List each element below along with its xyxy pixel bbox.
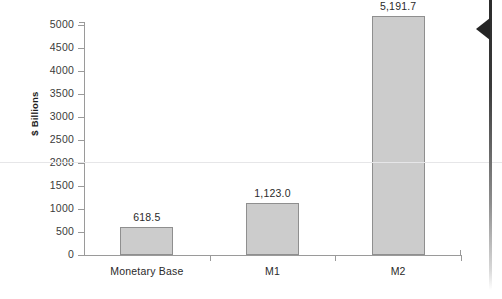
y-axis-tick-label: 3500 bbox=[28, 88, 74, 99]
y-axis-tick-label-wrap: 2500 bbox=[22, 140, 74, 141]
y-axis-tick-label-wrap: 4500 bbox=[22, 48, 74, 49]
y-axis-tick-label: 1000 bbox=[28, 203, 74, 214]
scan-line-artifact bbox=[0, 162, 502, 163]
x-axis-category-label: M1 bbox=[213, 265, 333, 277]
y-axis-tick bbox=[78, 255, 84, 256]
bar-value-label: 1,123.0 bbox=[223, 187, 323, 199]
y-axis-tick-label-wrap: 2000 bbox=[22, 163, 74, 164]
y-axis-top-cap bbox=[79, 22, 85, 23]
y-axis-tick-label: 500 bbox=[28, 226, 74, 237]
y-axis-tick-label: 0 bbox=[28, 249, 74, 260]
x-axis-category-label: Monetary Base bbox=[87, 265, 207, 277]
y-axis-tick-label-wrap: 4000 bbox=[22, 71, 74, 72]
y-axis-tick bbox=[78, 48, 84, 49]
y-axis-tick-label-wrap: 5000 bbox=[22, 25, 74, 26]
arrow-marker-icon bbox=[476, 18, 490, 40]
y-axis-tick-label: 2500 bbox=[28, 134, 74, 145]
x-axis-line bbox=[84, 255, 461, 256]
page-edge-artifact bbox=[489, 0, 492, 290]
y-axis-tick-label-wrap: 1000 bbox=[22, 209, 74, 210]
y-axis-tick bbox=[78, 232, 84, 233]
y-axis-tick bbox=[78, 94, 84, 95]
y-axis-tick-label-wrap: 0 bbox=[22, 255, 74, 256]
y-axis-tick bbox=[78, 140, 84, 141]
x-axis-tick bbox=[335, 255, 336, 261]
y-axis-tick-label-wrap: 1500 bbox=[22, 186, 74, 187]
y-axis-tick-label-wrap: 3500 bbox=[22, 94, 74, 95]
y-axis-tick-label-wrap: 3000 bbox=[22, 117, 74, 118]
y-axis-tick-label: 3000 bbox=[28, 111, 74, 122]
y-axis-line bbox=[84, 22, 85, 256]
y-axis-tick-label: 1500 bbox=[28, 180, 74, 191]
y-axis-tick bbox=[78, 209, 84, 210]
x-axis-tick bbox=[461, 255, 462, 261]
x-axis-tick bbox=[210, 255, 211, 261]
y-axis-tick bbox=[78, 163, 84, 164]
bar-value-label: 618.5 bbox=[97, 211, 197, 223]
y-axis-tick bbox=[78, 186, 84, 187]
x-axis-category-label: M2 bbox=[338, 265, 458, 277]
y-axis-tick bbox=[78, 117, 84, 118]
bar bbox=[120, 227, 173, 255]
bar bbox=[246, 203, 299, 255]
y-axis-tick bbox=[78, 71, 84, 72]
bar-value-label: 5,191.7 bbox=[348, 0, 448, 12]
y-axis-tick-label: 5000 bbox=[28, 19, 74, 30]
y-axis-tick bbox=[78, 25, 84, 26]
y-axis-tick-label-wrap: 500 bbox=[22, 232, 74, 233]
bar-chart-screenshot: $ Billions 05001000150020002500300035004… bbox=[0, 0, 502, 299]
bar bbox=[372, 16, 425, 255]
y-axis-tick-label: 4000 bbox=[28, 65, 74, 76]
y-axis-tick-label: 4500 bbox=[28, 42, 74, 53]
